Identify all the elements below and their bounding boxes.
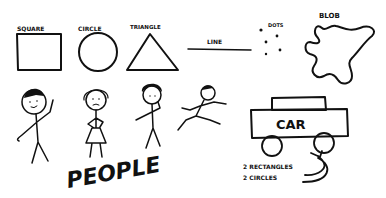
line-shape [188,49,251,50]
curved-arrow-icon [303,151,327,182]
dot [265,41,268,44]
dots-label: DOTS [268,22,284,28]
circle-label: CIRCLE [78,25,102,32]
person-girl [84,90,108,157]
circle-shape [79,33,117,71]
triangle-shape [127,34,178,70]
dot [276,35,279,38]
car-label: CAR [276,117,306,132]
dot [279,49,282,52]
blob-group: BLOB [306,12,375,83]
people-label: PEOPLE [65,152,163,193]
cap-icon [24,89,44,98]
dot [265,53,267,55]
car-group: CAR 2 RECTANGLES 2 CIRCLES [243,97,348,182]
circle-group: CIRCLE [78,25,117,71]
person-running [178,85,226,130]
sketch-canvas: SQUARE CIRCLE TRIANGLE LINE DOTS BLOB [0,0,386,198]
car-wheel-left [262,136,282,156]
car-roof-rectangle [272,97,326,110]
blob-shape [306,26,375,84]
square-shape [17,34,61,70]
triangle-group: TRIANGLE [127,24,178,70]
car-note-line1: 2 RECTANGLES [243,163,293,170]
blob-label: BLOB [319,12,340,20]
dots-group: DOTS [259,22,283,55]
square-label: SQUARE [17,25,44,32]
line-group: LINE [188,38,251,50]
square-group: SQUARE [17,25,61,70]
dot [259,28,262,31]
person-cap-waving [18,89,53,163]
people-group: PEOPLE [18,84,226,193]
triangle-label: TRIANGLE [130,24,161,30]
line-label: LINE [207,38,222,45]
car-note-line2: 2 CIRCLES [243,174,277,181]
person-curly-hair [136,84,162,148]
